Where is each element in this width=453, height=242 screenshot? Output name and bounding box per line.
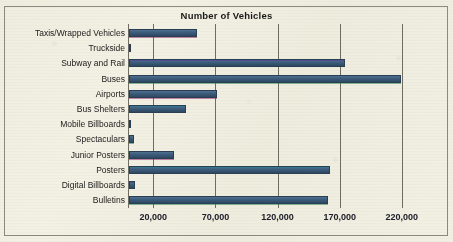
chart-row: Digital Billboards <box>0 178 453 192</box>
category-label: Mobile Billboards <box>0 117 125 131</box>
category-label: Subway and Rail <box>0 56 125 70</box>
bar <box>129 59 345 67</box>
chart-row: Bulletins <box>0 193 453 207</box>
bar <box>129 135 134 143</box>
chart-row: Posters <box>0 163 453 177</box>
bar <box>129 120 131 128</box>
chart-row: Junior Posters <box>0 148 453 162</box>
chart-row: Spectaculars <box>0 132 453 146</box>
category-label: Truckside <box>0 41 125 55</box>
bar <box>129 166 330 174</box>
bar <box>129 151 174 159</box>
bar <box>129 181 135 189</box>
chart-row: Truckside <box>0 41 453 55</box>
category-label: Junior Posters <box>0 148 125 162</box>
category-label: Bulletins <box>0 193 125 207</box>
category-label: Taxis/Wrapped Vehicles <box>0 26 125 40</box>
chart-row: Airports <box>0 87 453 101</box>
bar <box>129 44 131 52</box>
chart-row: Bus Shelters <box>0 102 453 116</box>
chart-row: Buses <box>0 72 453 86</box>
x-tick-label: 120,000 <box>261 212 294 222</box>
plot-area: 20,00070,000120,000170,000220,000 Taxis/… <box>0 0 453 242</box>
x-tick-label: 20,000 <box>140 212 168 222</box>
chart-row: Taxis/Wrapped Vehicles <box>0 26 453 40</box>
bar <box>129 105 186 113</box>
category-label: Digital Billboards <box>0 178 125 192</box>
x-tick-label: 220,000 <box>386 212 419 222</box>
bar <box>129 75 401 83</box>
bar <box>129 90 217 98</box>
x-tick-label: 170,000 <box>323 212 356 222</box>
category-label: Bus Shelters <box>0 102 125 116</box>
category-label: Airports <box>0 87 125 101</box>
x-tick-label: 70,000 <box>202 212 230 222</box>
chart-row: Subway and Rail <box>0 56 453 70</box>
chart-screenshot: Number of Vehicles 20,00070,000120,00017… <box>0 0 453 242</box>
category-label: Posters <box>0 163 125 177</box>
bar <box>129 29 197 37</box>
category-label: Spectaculars <box>0 132 125 146</box>
chart-row: Mobile Billboards <box>0 117 453 131</box>
bar <box>129 196 328 204</box>
category-label: Buses <box>0 72 125 86</box>
